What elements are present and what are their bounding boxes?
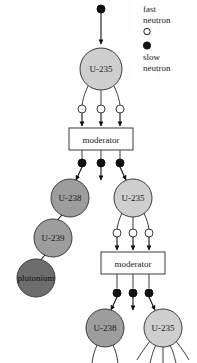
u238-mid-left-label: U-238 <box>59 193 82 203</box>
u235-top-label: U-235 <box>90 64 113 74</box>
node-u238-mid-left: U-238 <box>51 179 89 217</box>
u238-bottom-label: U-238 <box>94 323 117 333</box>
stage1-fast-path-left <box>82 86 88 105</box>
stage2-fast-path-right <box>144 213 149 229</box>
stage2-slow-arrow-right <box>149 297 155 310</box>
legend: fast neutron slow neutron <box>143 4 171 73</box>
stage1-slow-arrow-left <box>76 167 82 180</box>
stage1-slow-neutron-right <box>116 159 124 167</box>
node-u238-bottom: U-238 <box>86 309 124 363</box>
node-u235-mid-right: U-235 <box>114 179 152 217</box>
stage2-fast-neutron-center <box>129 229 137 237</box>
moderator-box-2: moderator <box>101 252 165 274</box>
legend-slow-label-line1: slow <box>143 52 161 62</box>
stage1-fast-neutron-center <box>97 105 105 113</box>
plutonium-label: plutonium <box>17 273 54 283</box>
moderator-1-label: moderator <box>83 135 120 145</box>
stage2-slow-arrow-left <box>111 297 117 310</box>
stage1-fast-neutrons <box>78 86 124 126</box>
u238-bottom-emission-left <box>92 345 97 363</box>
u235-bottom-emission-1 <box>137 341 150 360</box>
stage1-fast-neutron-right <box>116 105 124 113</box>
u235-bottom-label: U-235 <box>152 323 175 333</box>
stage1-slow-neutron-center <box>97 159 105 167</box>
u235-mid-right-label: U-235 <box>122 193 145 203</box>
legend-slow-neutron-icon <box>143 42 150 49</box>
legend-fast-label-line2: neutron <box>143 15 171 25</box>
stage1-slow-neutrons <box>76 150 126 180</box>
u235-bottom-emission-4 <box>170 345 176 363</box>
stage1-slow-arrow-right <box>120 167 126 180</box>
stage2-slow-neutron-center <box>129 289 137 297</box>
stage2-fast-neutron-right <box>145 229 153 237</box>
stage2-fast-path-left <box>117 213 122 229</box>
moderator-box-1: moderator <box>69 128 133 150</box>
legend-fast-label-line1: fast <box>143 4 156 14</box>
stage2-slow-neutron-right <box>145 289 153 297</box>
stage2-fast-neutrons <box>113 213 153 250</box>
diagram-canvas: fast neutron slow neutron U-235 <box>0 0 197 363</box>
stage2-slow-neutrons <box>111 274 155 310</box>
stage1-fast-path-right <box>114 86 120 105</box>
node-u235-bottom: U-235 <box>137 309 189 363</box>
left-decay-branch: U-239 plutonium <box>17 215 72 297</box>
incident-neutron-group <box>97 5 105 44</box>
u239-label: U-239 <box>42 233 65 243</box>
stage2-slow-neutron-left <box>113 289 121 297</box>
stage1-slow-neutron-left <box>78 159 86 167</box>
u235-bottom-emission-5 <box>176 341 189 360</box>
moderator-2-label: moderator <box>115 259 152 269</box>
incident-slow-neutron-icon <box>97 5 105 13</box>
u235-bottom-emission-2 <box>150 345 156 363</box>
node-u235-top: U-235 <box>80 48 122 90</box>
legend-fast-neutron-icon <box>144 28 150 34</box>
stage2-fast-neutron-left <box>113 229 121 237</box>
stage1-fast-neutron-left <box>78 105 86 113</box>
u238-bottom-emission-right <box>113 345 118 363</box>
chain-reaction-diagram: fast neutron slow neutron U-235 <box>0 0 197 363</box>
legend-slow-label-line2: neutron <box>143 63 171 73</box>
